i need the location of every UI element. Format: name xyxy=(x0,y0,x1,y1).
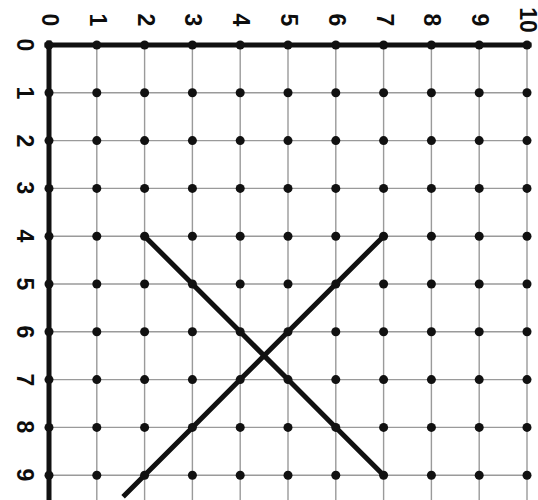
lattice-dot xyxy=(140,136,149,145)
lattice-dot xyxy=(188,232,197,241)
coordinate-grid xyxy=(0,0,538,500)
lattice-dot xyxy=(475,280,484,289)
lattice-dot xyxy=(140,327,149,336)
y-tick-label-4: 4 xyxy=(13,230,36,243)
lattice-dot xyxy=(379,41,388,50)
lattice-dot xyxy=(523,423,532,432)
lattice-dot xyxy=(475,41,484,50)
lattice-dot xyxy=(331,88,340,97)
lattice-dot xyxy=(92,88,101,97)
lattice-dot xyxy=(427,327,436,336)
lattice-dot xyxy=(188,423,197,432)
lattice-dot xyxy=(45,136,54,145)
lattice-dot xyxy=(45,423,54,432)
y-tick-label-3: 3 xyxy=(13,182,36,195)
lattice-dot xyxy=(427,136,436,145)
data-line-ascending-diagonal xyxy=(123,236,384,497)
lattice-dot xyxy=(236,280,245,289)
lattice-dot xyxy=(379,136,388,145)
lattice-dot xyxy=(475,375,484,384)
lattice-dot xyxy=(331,423,340,432)
lattice-dot xyxy=(92,184,101,193)
x-tick-label-6: 6 xyxy=(324,14,347,27)
lattice-dot xyxy=(188,41,197,50)
lattice-dot xyxy=(188,136,197,145)
y-tick-label-6: 6 xyxy=(13,325,36,338)
y-tick-label-7: 7 xyxy=(13,373,36,386)
lattice-dot xyxy=(523,280,532,289)
lattice-dot xyxy=(284,327,293,336)
lattice-dot xyxy=(427,280,436,289)
lattice-dot xyxy=(331,41,340,50)
data-lines-layer xyxy=(123,236,384,497)
lattice-dot xyxy=(45,232,54,241)
lattice-dot xyxy=(140,423,149,432)
lattice-dot xyxy=(379,184,388,193)
x-tick-label-2: 2 xyxy=(133,14,156,27)
x-tick-label-4: 4 xyxy=(229,14,252,27)
lattice-dot xyxy=(236,375,245,384)
lattice-dot xyxy=(331,184,340,193)
lattice-dot xyxy=(188,375,197,384)
lattice-dot xyxy=(379,375,388,384)
lattice-dot xyxy=(379,232,388,241)
y-tick-label-1: 1 xyxy=(13,86,36,99)
lattice-dot xyxy=(284,41,293,50)
lattice-dot xyxy=(379,327,388,336)
lattice-dot xyxy=(45,471,54,480)
lattice-dot xyxy=(523,88,532,97)
lattice-dot xyxy=(140,88,149,97)
lattice-dot xyxy=(475,136,484,145)
x-tick-label-10: 10 xyxy=(516,7,538,33)
x-tick-label-1: 1 xyxy=(85,14,108,27)
lattice-dot xyxy=(284,232,293,241)
lattice-dot xyxy=(523,375,532,384)
lattice-dot xyxy=(140,232,149,241)
lattice-dot xyxy=(236,232,245,241)
y-tick-label-9: 9 xyxy=(13,469,36,482)
figure-canvas: 012345678910 0123456789 xyxy=(0,0,538,500)
lattice-dot xyxy=(140,471,149,480)
y-tick-label-2: 2 xyxy=(13,134,36,147)
lattice-dot xyxy=(45,280,54,289)
lattice-dot xyxy=(45,375,54,384)
lattice-dot xyxy=(331,327,340,336)
lattice-dot xyxy=(236,136,245,145)
lattice-dot xyxy=(475,184,484,193)
lattice-dot xyxy=(475,232,484,241)
lattice-dot xyxy=(523,471,532,480)
lattice-dot xyxy=(379,88,388,97)
lattice-dot xyxy=(92,375,101,384)
lattice-dot xyxy=(475,327,484,336)
lattice-dot xyxy=(284,136,293,145)
lattice-dot xyxy=(475,423,484,432)
lattice-dot xyxy=(92,280,101,289)
lattice-dot xyxy=(236,184,245,193)
x-tick-label-3: 3 xyxy=(181,14,204,27)
lattice-dot xyxy=(45,184,54,193)
lattice-dot xyxy=(45,327,54,336)
lattice-dot xyxy=(331,375,340,384)
lattice-dot xyxy=(427,232,436,241)
lattice-dot xyxy=(188,280,197,289)
lattice-dot xyxy=(140,280,149,289)
x-tick-label-8: 8 xyxy=(420,14,443,27)
lattice-dot xyxy=(284,375,293,384)
lattice-dot xyxy=(92,232,101,241)
lattice-dot xyxy=(140,375,149,384)
lattice-dot xyxy=(284,88,293,97)
lattice-dot xyxy=(379,280,388,289)
lattice-dot xyxy=(284,423,293,432)
x-tick-label-0: 0 xyxy=(38,14,61,27)
lattice-dot xyxy=(188,184,197,193)
lattice-dot xyxy=(331,232,340,241)
lattice-dot xyxy=(284,184,293,193)
lattice-dot xyxy=(427,375,436,384)
lattice-dot xyxy=(427,471,436,480)
lattice-dot xyxy=(45,88,54,97)
lattice-dot xyxy=(188,88,197,97)
lattice-dot xyxy=(475,88,484,97)
lattice-dot xyxy=(236,327,245,336)
lattice-dot xyxy=(379,471,388,480)
lattice-dot xyxy=(427,41,436,50)
